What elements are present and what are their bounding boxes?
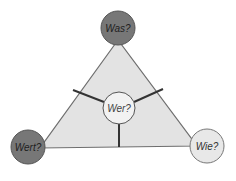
node-bottom-right-label: Wie? [196,141,219,152]
node-center[interactable]: Wer? [103,92,135,124]
node-center-label: Wer? [107,103,131,114]
triangle-diagram: Wer? Was? Wert? Wie? [0,0,236,181]
node-bottom-left[interactable]: Wert? [11,130,45,164]
node-bottom-right[interactable]: Wie? [190,129,224,163]
node-bottom-left-label: Wert? [15,142,42,153]
node-top-label: Was? [105,23,131,34]
node-top[interactable]: Was? [101,11,135,45]
